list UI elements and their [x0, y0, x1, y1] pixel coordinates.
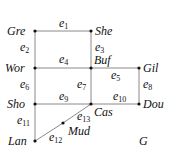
edge-label-e11: e11: [17, 113, 30, 128]
node-lan: [33, 139, 36, 142]
node-gil: [137, 66, 140, 69]
edge-label-e13: e13: [77, 109, 90, 124]
node-label-cas: Cas: [94, 105, 113, 119]
graph-name-label: G: [139, 134, 148, 148]
node-cas: [89, 102, 92, 105]
node-label-gre: Gre: [7, 24, 26, 38]
node-label-wor: Wor: [5, 61, 25, 75]
edge-label-e7: e7: [77, 77, 86, 92]
edge-label-e5: e5: [111, 68, 120, 83]
edge-label-e4: e4: [59, 52, 68, 67]
node-mud: [61, 121, 64, 124]
node-label-gil: Gil: [143, 61, 159, 75]
node-buf: [89, 66, 92, 69]
node-wor: [33, 66, 36, 69]
node-label-buf: Buf: [94, 53, 112, 67]
edge-label-e2: e2: [20, 40, 29, 55]
edge-label-e10: e10: [113, 89, 126, 104]
edge-label-e9: e9: [59, 89, 68, 104]
node-she: [89, 29, 92, 32]
node-label-mud: Mud: [67, 124, 91, 138]
node-label-she: She: [95, 24, 113, 38]
edge-label-e6: e6: [20, 77, 29, 92]
edge-label-e3: e3: [95, 40, 104, 55]
edge-label-e1: e1: [59, 16, 68, 31]
graph-diagram: Gre She Wor Buf Gil Sho Cas Dou Mud Lan …: [0, 0, 173, 156]
node-sho: [33, 102, 36, 105]
node-gre: [33, 29, 36, 32]
edge-label-e12: e12: [49, 130, 62, 145]
node-dou: [137, 102, 140, 105]
node-label-lan: Lan: [7, 134, 27, 148]
edge-label-e8: e8: [143, 77, 152, 92]
node-label-dou: Dou: [142, 97, 164, 111]
node-label-sho: Sho: [7, 97, 25, 111]
